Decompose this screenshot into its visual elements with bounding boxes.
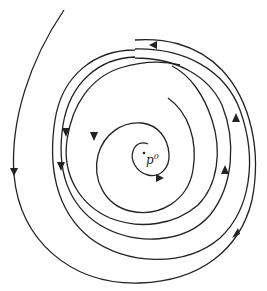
arrow-up-icon xyxy=(221,165,229,174)
arrow-down-icon xyxy=(10,168,18,176)
arrow-down-icon xyxy=(57,162,65,171)
arrow-right-icon xyxy=(156,174,164,182)
arrow-down-icon xyxy=(90,132,98,141)
phase-portrait-diagram: p0 xyxy=(0,0,267,291)
equilibrium-point xyxy=(143,152,146,155)
arrow-left-icon xyxy=(149,41,157,49)
equilibrium-label: p0 xyxy=(146,152,159,167)
orbit-middle xyxy=(61,57,231,239)
arrow-up-icon xyxy=(232,113,240,122)
